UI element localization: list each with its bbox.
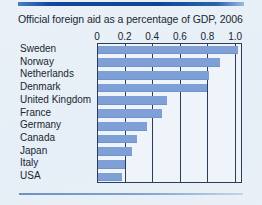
bar <box>98 160 125 169</box>
top-divider-rule <box>18 2 244 6</box>
category-label: Denmark <box>4 81 91 93</box>
bar <box>98 96 167 105</box>
bar <box>98 147 132 156</box>
category-label: Canada <box>4 132 91 144</box>
chart-figure: Official foreign aid as a percentage of … <box>0 0 262 205</box>
bottom-divider-rule <box>19 193 243 195</box>
x-axis-tick-labels: 00.20.40.60.81.0 <box>0 30 262 43</box>
bar <box>98 109 162 118</box>
category-label: Italy <box>4 157 91 169</box>
category-label: Germany <box>4 119 91 131</box>
category-label: Netherlands <box>4 68 91 80</box>
bar <box>98 71 209 80</box>
category-label: United Kingdom <box>4 94 91 106</box>
bar <box>98 122 147 131</box>
category-label: France <box>4 107 91 119</box>
plot-area <box>97 43 242 183</box>
x-tick-label: 0.4 <box>145 30 159 43</box>
bar <box>98 46 238 55</box>
bar <box>98 173 122 182</box>
category-label: Norway <box>4 56 91 68</box>
x-tick-label: 0.6 <box>173 30 187 43</box>
category-label: USA <box>4 170 91 182</box>
category-label: Japan <box>4 145 91 157</box>
x-tick-label: 0.2 <box>118 30 132 43</box>
bar <box>98 84 207 93</box>
category-axis-labels: SwedenNorwayNetherlandsDenmarkUnited Kin… <box>0 43 95 183</box>
bar <box>98 135 137 144</box>
x-gridline <box>235 44 236 182</box>
x-tick-label: 1.0 <box>228 30 242 43</box>
chart-title: Official foreign aid as a percentage of … <box>18 13 254 26</box>
x-tick-label: 0.8 <box>201 30 215 43</box>
category-label: Sweden <box>4 43 91 55</box>
x-tick-label: 0 <box>94 30 100 43</box>
bar <box>98 58 220 67</box>
